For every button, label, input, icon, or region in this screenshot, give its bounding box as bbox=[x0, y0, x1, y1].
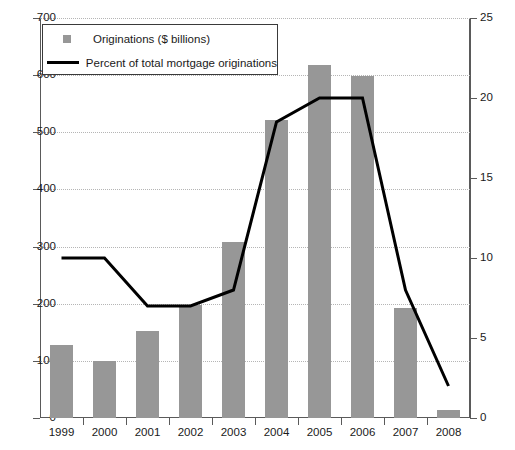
x-tick-mark bbox=[341, 418, 342, 425]
x-tick-mark bbox=[212, 418, 213, 425]
gridline bbox=[40, 247, 470, 248]
legend-bar-swatch-icon bbox=[47, 35, 87, 43]
right-tick-mark bbox=[470, 18, 477, 19]
legend-label-originations: Originations ($ billions) bbox=[93, 33, 210, 45]
right-tick-mark bbox=[470, 178, 477, 179]
left-tick-label: 300 bbox=[37, 241, 56, 253]
bar bbox=[93, 361, 116, 418]
right-tick-label: 15 bbox=[480, 172, 493, 184]
gridline bbox=[40, 132, 470, 133]
legend-item-percent: Percent of total mortgage originations bbox=[43, 50, 277, 75]
right-tick-mark bbox=[470, 418, 477, 419]
x-tick-mark bbox=[255, 418, 256, 425]
legend-line-swatch-icon bbox=[47, 61, 80, 64]
gridline bbox=[40, 189, 470, 190]
right-tick-mark bbox=[470, 338, 477, 339]
x-tick-mark bbox=[169, 418, 170, 425]
gridline bbox=[40, 75, 470, 76]
bar bbox=[351, 76, 374, 418]
gridline bbox=[40, 18, 470, 19]
x-tick-label: 2006 bbox=[341, 427, 384, 439]
x-tick-mark bbox=[427, 418, 428, 425]
right-tick-label: 10 bbox=[480, 252, 493, 264]
x-tick-mark bbox=[126, 418, 127, 425]
left-tick-mark bbox=[33, 418, 40, 419]
x-tick-label: 2004 bbox=[255, 427, 298, 439]
chart-container: 0100200300400500600700 0510152025 199920… bbox=[0, 0, 515, 450]
chart-legend: Originations ($ billions) Percent of tot… bbox=[42, 24, 278, 75]
right-tick-mark bbox=[470, 98, 477, 99]
bar bbox=[50, 345, 73, 418]
bar bbox=[394, 308, 417, 418]
x-tick-label: 2000 bbox=[83, 427, 126, 439]
x-tick-label: 2003 bbox=[212, 427, 255, 439]
x-tick-label: 2002 bbox=[169, 427, 212, 439]
x-tick-label: 2008 bbox=[427, 427, 470, 439]
x-tick-label: 1999 bbox=[40, 427, 83, 439]
right-tick-mark bbox=[470, 258, 477, 259]
legend-label-percent: Percent of total mortgage originations bbox=[86, 57, 277, 69]
x-tick-label: 2005 bbox=[298, 427, 341, 439]
bar bbox=[136, 331, 159, 418]
bar bbox=[437, 410, 460, 418]
gridline bbox=[40, 304, 470, 305]
x-tick-mark bbox=[83, 418, 84, 425]
x-tick-label: 2007 bbox=[384, 427, 427, 439]
bar bbox=[179, 305, 202, 418]
right-axis-line bbox=[470, 18, 471, 418]
bar bbox=[222, 242, 245, 418]
x-tick-mark bbox=[384, 418, 385, 425]
x-tick-mark bbox=[298, 418, 299, 425]
left-tick-label: 400 bbox=[37, 183, 56, 195]
right-tick-label: 0 bbox=[480, 412, 486, 424]
legend-item-originations: Originations ($ billions) bbox=[43, 26, 277, 51]
bar bbox=[308, 65, 331, 418]
left-tick-label: 500 bbox=[37, 126, 56, 138]
bar bbox=[265, 120, 288, 418]
right-tick-label: 5 bbox=[480, 332, 486, 344]
x-tick-label: 2001 bbox=[126, 427, 169, 439]
right-tick-label: 25 bbox=[480, 12, 493, 24]
left-tick-label: 700 bbox=[37, 12, 56, 24]
right-tick-label: 20 bbox=[480, 92, 493, 104]
left-tick-label: 200 bbox=[37, 298, 56, 310]
